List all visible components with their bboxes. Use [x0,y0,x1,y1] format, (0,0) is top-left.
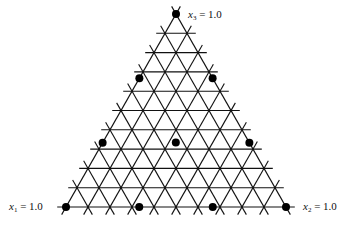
design-point [62,203,70,211]
design-point [99,139,107,147]
design-point [282,203,290,211]
vertex-label-x3: x3 = 1.0 [188,8,222,22]
design-point [209,74,217,82]
ternary-lattice-diagram [0,0,350,225]
design-point [135,74,143,82]
grid-line-x1 [139,64,225,214]
grid-line-x1 [161,26,269,215]
vertex-label-x2: x2 = 1.0 [303,200,337,214]
grid-line-x2 [260,180,280,215]
design-point [245,139,253,147]
grid-line-x1 [95,141,137,214]
design-point [135,203,143,211]
vertex-label-x1: x1 = 1.0 [9,200,43,214]
design-point [172,10,180,18]
design-point [209,203,217,211]
grid-line-x2 [128,64,214,214]
design-point [172,139,180,147]
grid-line-x2 [84,26,192,215]
grid-line-x2 [216,141,258,214]
grid-line-x1 [73,180,93,215]
